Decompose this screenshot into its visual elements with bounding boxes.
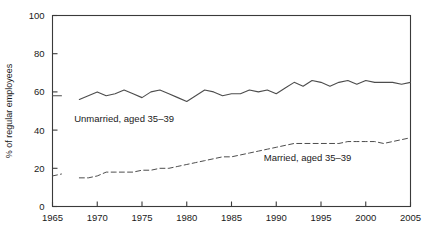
x-tick-label-1970: 1970 — [87, 212, 108, 223]
chart-figure: 0204060801001965197019751980198519901995… — [0, 0, 428, 241]
y-tick-label-20: 20 — [34, 163, 45, 174]
x-tick-label-1975: 1975 — [131, 212, 152, 223]
series-2-line — [79, 138, 410, 178]
x-tick-label-1985: 1985 — [221, 212, 242, 223]
x-tick-label-1980: 1980 — [176, 212, 197, 223]
y-tick-label-0: 0 — [39, 201, 44, 212]
y-tick-label-80: 80 — [34, 48, 45, 59]
annotation-unmarried: Unmarried, aged 35–39 — [74, 113, 174, 124]
chart-svg: 0204060801001965197019751980198519901995… — [0, 0, 428, 241]
annotation-married: Married, aged 35–39 — [264, 152, 352, 163]
y-tick-label-60: 60 — [34, 86, 45, 97]
series-2-stub — [53, 174, 62, 176]
x-tick-label-1965: 1965 — [42, 212, 63, 223]
x-tick-label-1995: 1995 — [310, 212, 331, 223]
y-axis-title: % of regular employees — [4, 63, 14, 158]
plot-frame — [53, 16, 411, 207]
x-tick-label-2005: 2005 — [400, 212, 421, 223]
y-tick-label-40: 40 — [34, 125, 45, 136]
x-tick-label-1990: 1990 — [266, 212, 287, 223]
series-1-line — [79, 80, 410, 101]
x-tick-label-2000: 2000 — [355, 212, 376, 223]
y-tick-label-100: 100 — [29, 10, 45, 21]
